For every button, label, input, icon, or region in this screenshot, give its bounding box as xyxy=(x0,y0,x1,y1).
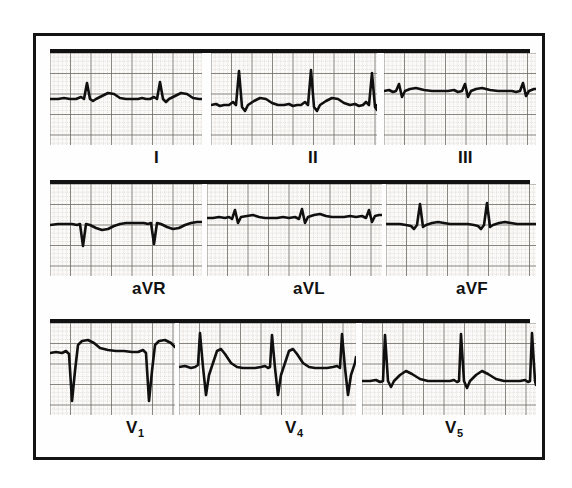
ecg-trace-svg xyxy=(362,323,536,415)
ecg-strip-ii xyxy=(211,53,377,145)
lead-label-text: V xyxy=(126,418,138,437)
label-container: aVRaVLaVF xyxy=(50,276,530,306)
label-container: V1V4V5 xyxy=(50,415,530,445)
ecg-rows: IIIIII aVRaVLaVF V1V4V5 xyxy=(36,36,542,457)
lead-label-text: aVF xyxy=(456,279,488,298)
ecg-strip-v4 xyxy=(179,323,356,415)
ecg-row-limb-leads: IIIIII xyxy=(50,49,530,175)
ecg-strip-v5 xyxy=(362,323,536,415)
lead-label-iii: III xyxy=(458,149,473,166)
lead-label-v4: V4 xyxy=(285,419,303,436)
lead-label-subscript: 1 xyxy=(138,427,144,439)
figure-border: IIIIII aVRaVLaVF V1V4V5 xyxy=(33,33,545,460)
ecg-trace-svg xyxy=(386,184,536,276)
ecg-row-augmented-leads: aVRaVLaVF xyxy=(50,180,530,306)
lead-label-subscript: 5 xyxy=(457,427,463,439)
lead-label-text: V xyxy=(285,418,297,437)
ecg-figure: IIIIII aVRaVLaVF V1V4V5 xyxy=(0,0,572,488)
label-container: IIIIII xyxy=(50,145,530,175)
strip-container xyxy=(50,323,530,415)
lead-label-text: II xyxy=(308,148,318,167)
ecg-strip-avl xyxy=(207,184,382,276)
ecg-row-precordial-leads: V1V4V5 xyxy=(50,319,530,445)
ecg-strip-i xyxy=(50,53,202,145)
lead-label-v5: V5 xyxy=(445,419,463,436)
lead-label-text: I xyxy=(154,148,159,167)
lead-label-avr: aVR xyxy=(132,280,166,297)
ecg-strip-iii xyxy=(384,53,536,145)
ecg-trace-svg xyxy=(211,53,377,145)
lead-label-text: aVL xyxy=(293,279,325,298)
lead-label-text: III xyxy=(458,148,473,167)
ecg-trace-svg xyxy=(207,184,382,276)
ecg-trace-svg xyxy=(50,53,202,145)
ecg-trace-svg xyxy=(384,53,536,145)
lead-label-text: V xyxy=(445,418,457,437)
lead-label-i: I xyxy=(154,149,159,166)
lead-label-avl: aVL xyxy=(293,280,325,297)
ecg-strip-avr xyxy=(50,184,202,276)
ecg-trace-svg xyxy=(50,184,202,276)
lead-label-ii: II xyxy=(308,149,318,166)
lead-label-text: aVR xyxy=(132,279,166,298)
ecg-trace-svg xyxy=(50,323,175,415)
strip-container xyxy=(50,184,530,276)
ecg-strip-avf xyxy=(386,184,536,276)
lead-label-subscript: 4 xyxy=(297,427,303,439)
strip-container xyxy=(50,53,530,145)
lead-label-v1: V1 xyxy=(126,419,144,436)
ecg-strip-v1 xyxy=(50,323,175,415)
lead-label-avf: aVF xyxy=(456,280,488,297)
ecg-trace-svg xyxy=(179,323,356,415)
